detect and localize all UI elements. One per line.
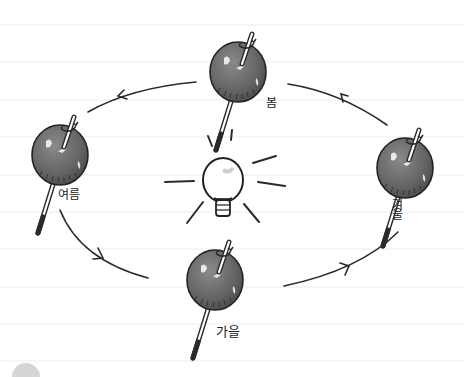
season-label-spring: 봄 (264, 96, 276, 106)
light-bulb-icon (203, 158, 243, 216)
season-label-winter: 겨울 (390, 198, 402, 218)
partial-shape (12, 363, 40, 377)
season-label-summer: 여름 (58, 189, 80, 201)
apple-winter (377, 130, 433, 246)
apple-autumn (187, 242, 243, 358)
apple-spring (210, 34, 266, 150)
season-label-autumn: 가을 (216, 325, 240, 338)
seasons-diagram: 봄 여름 겨울 가을 (0, 0, 464, 377)
season-label-summer-text: 여름 (58, 188, 80, 202)
apple-summer (32, 117, 88, 233)
